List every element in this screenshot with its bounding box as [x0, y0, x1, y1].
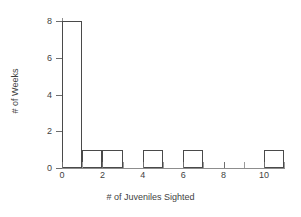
x-axis-tick	[244, 162, 245, 168]
histogram-bar	[82, 150, 102, 168]
y-axis-tick	[56, 21, 62, 22]
histogram-bar	[264, 150, 284, 168]
x-axis-line	[62, 168, 285, 169]
y-axis-tick-label: 8	[28, 17, 52, 26]
x-axis-tick-label: 4	[132, 170, 154, 181]
y-axis-tick	[56, 131, 62, 132]
x-axis-tick-label: 8	[213, 170, 235, 181]
x-axis-tick	[264, 162, 265, 168]
x-axis-tick	[183, 162, 184, 168]
x-axis-tick	[123, 162, 124, 168]
x-axis-tick-label: 2	[91, 170, 113, 181]
x-axis-tick	[163, 162, 164, 168]
y-axis-title: # of Weeks	[10, 46, 20, 136]
x-axis-tick	[284, 162, 285, 168]
y-axis-tick-label: 6	[28, 54, 52, 63]
histogram-bar	[62, 21, 82, 168]
y-axis-tick-label: 4	[28, 91, 52, 100]
x-axis-tick	[203, 162, 204, 168]
histogram-figure: 024681002468 # of Juveniles Sighted # of…	[0, 0, 301, 217]
x-axis-tick-label: 6	[172, 170, 194, 181]
x-axis-title: # of Juveniles Sighted	[0, 192, 301, 202]
x-axis-tick-label: 10	[253, 170, 275, 181]
x-axis-tick	[62, 162, 63, 168]
y-axis-tick	[56, 168, 62, 169]
x-axis-tick	[143, 162, 144, 168]
histogram-bar	[143, 150, 163, 168]
x-axis-tick	[224, 162, 225, 168]
x-axis-tick-label: 0	[51, 170, 73, 181]
y-axis-tick	[56, 58, 62, 59]
histogram-bar	[102, 150, 122, 168]
histogram-bar	[183, 150, 203, 168]
x-axis-tick	[102, 162, 103, 168]
y-axis-tick-label: 2	[28, 127, 52, 136]
y-axis-tick-label: 0	[28, 164, 52, 173]
x-axis-tick	[82, 162, 83, 168]
y-axis-tick	[56, 95, 62, 96]
